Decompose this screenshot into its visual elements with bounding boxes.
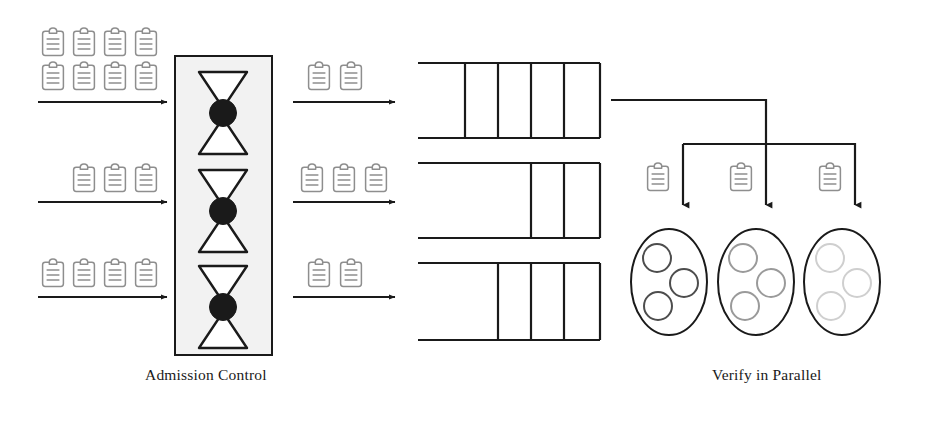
incoming-lane-3 <box>38 259 167 297</box>
diagram-canvas: Admission Control Verify in Parallel <box>0 0 934 423</box>
clipboard-icon <box>74 28 95 56</box>
clipboard-icon <box>43 28 64 56</box>
clipboard-icon <box>74 62 95 90</box>
admitted-lane-1 <box>293 62 395 102</box>
clipboard-icon <box>43 62 64 90</box>
clipboard-icon <box>105 28 126 56</box>
clipboard-icon <box>302 164 323 192</box>
clipboard-icon <box>334 164 355 192</box>
clipboard-icon <box>136 164 157 192</box>
clipboard-group-lane-1 <box>43 28 157 90</box>
queue-lane-2 <box>418 163 600 238</box>
worker-clipboards <box>648 163 841 191</box>
clipboard-group-admitted-1 <box>309 62 362 90</box>
clipboard-icon <box>366 164 387 192</box>
queue-lane-3 <box>418 263 600 340</box>
diagram-svg <box>0 0 934 423</box>
clipboard-icon <box>105 259 126 287</box>
incoming-lane-2 <box>38 164 167 202</box>
admission-control-label: Admission Control <box>145 366 267 384</box>
worker-boundary <box>718 229 794 335</box>
admission-control-box <box>175 56 272 355</box>
clipboard-icon <box>136 259 157 287</box>
clipboard-icon <box>341 259 362 287</box>
clipboard-icon <box>74 259 95 287</box>
worker-boundary <box>804 229 880 335</box>
clipboard-icon <box>341 62 362 90</box>
queue-lane-1 <box>418 63 600 138</box>
clipboard-icon <box>74 164 95 192</box>
admitted-lane-2 <box>293 164 395 202</box>
worker-ellipse-icon <box>804 229 880 335</box>
clipboard-icon <box>820 163 841 191</box>
clipboard-icon <box>43 259 64 287</box>
clipboard-icon <box>136 28 157 56</box>
clipboard-icon <box>105 164 126 192</box>
clipboard-group-lane-2 <box>74 164 157 192</box>
clipboard-icon <box>136 62 157 90</box>
worker-ellipse-icon <box>631 229 707 335</box>
worker-boundary <box>631 229 707 335</box>
clipboard-icon <box>648 163 669 191</box>
clipboard-icon <box>309 62 330 90</box>
clipboard-icon <box>309 259 330 287</box>
clipboard-icon <box>105 62 126 90</box>
verify-in-parallel-label: Verify in Parallel <box>712 366 821 384</box>
clipboard-group-admitted-2 <box>302 164 387 192</box>
worker-ellipse-icon <box>718 229 794 335</box>
clipboard-group-lane-3 <box>43 259 157 287</box>
incoming-lane-1 <box>38 28 167 102</box>
clipboard-group-admitted-3 <box>309 259 362 287</box>
admitted-lane-3 <box>293 259 395 297</box>
clipboard-icon <box>731 163 752 191</box>
